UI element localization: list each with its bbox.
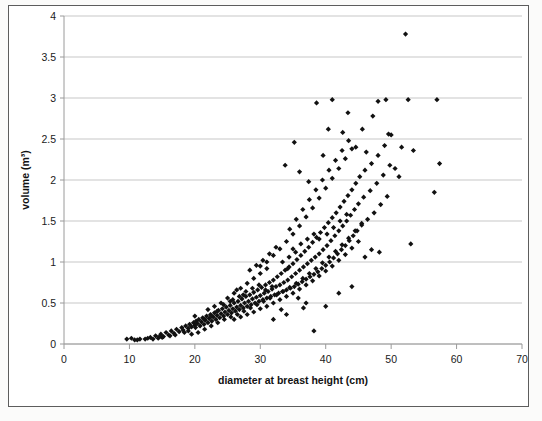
data-point (307, 197, 312, 202)
data-point (311, 272, 316, 277)
data-point (340, 223, 345, 228)
data-point (267, 280, 272, 285)
data-point (285, 277, 290, 282)
data-point (375, 153, 380, 158)
data-point (310, 278, 315, 283)
x-tick-label: 20 (189, 353, 201, 365)
data-point (275, 274, 280, 279)
data-point (189, 332, 194, 337)
data-point (364, 150, 369, 155)
data-point (279, 271, 284, 276)
data-point (357, 174, 362, 179)
data-point (202, 327, 207, 332)
data-point (385, 194, 390, 199)
data-point (352, 207, 357, 212)
data-point (324, 243, 329, 248)
data-point (396, 174, 401, 179)
data-point (254, 263, 259, 268)
data-point (331, 255, 336, 260)
data-point (356, 239, 361, 244)
data-point (251, 309, 256, 314)
data-point (245, 281, 250, 286)
y-tick-label: 2.5 (41, 133, 56, 145)
y-tick-label: 1.5 (41, 215, 56, 227)
data-point (317, 273, 322, 278)
data-point (263, 282, 268, 287)
data-point (245, 312, 250, 317)
data-point (300, 207, 305, 212)
data-point (303, 214, 308, 219)
data-point (339, 247, 344, 252)
data-point (356, 201, 361, 206)
data-point (286, 254, 291, 259)
data-point (196, 330, 201, 335)
data-point (330, 215, 335, 220)
data-point (330, 264, 335, 269)
data-point (264, 304, 269, 309)
data-point (340, 130, 345, 135)
data-point (339, 148, 344, 153)
data-point (313, 187, 318, 192)
data-point (314, 100, 319, 105)
data-point (333, 158, 338, 163)
data-point (324, 232, 329, 237)
data-point (399, 145, 404, 150)
data-point (212, 304, 217, 309)
scatter-plot: 00.511.522.533.54 010203040506070 diamet… (9, 6, 528, 406)
data-point (305, 236, 310, 241)
data-point (251, 276, 256, 281)
y-tick-label: 0 (50, 338, 56, 350)
data-point (283, 163, 288, 168)
data-point (320, 177, 325, 182)
data-point (362, 254, 367, 259)
x-tick-label: 30 (254, 353, 266, 365)
data-point (310, 240, 315, 245)
data-point (345, 193, 350, 198)
data-point (344, 212, 349, 217)
data-point (332, 233, 337, 238)
data-point (323, 186, 328, 191)
data-point (294, 257, 299, 262)
data-point (372, 210, 377, 215)
data-point (284, 312, 289, 317)
data-point (297, 169, 302, 174)
data-point (345, 110, 350, 115)
data-point (375, 99, 380, 104)
data-point (303, 282, 308, 287)
data-point (370, 113, 375, 118)
data-point (411, 148, 416, 153)
data-point (353, 181, 358, 186)
data-point (289, 274, 294, 279)
data-point (317, 251, 322, 256)
data-point (361, 195, 366, 200)
chart-frame: 00.511.522.533.54 010203040506070 diamet… (8, 5, 529, 407)
y-tick-label: 2 (50, 174, 56, 186)
x-tick-label: 10 (124, 353, 136, 365)
data-point (341, 199, 346, 204)
data-point (192, 314, 197, 319)
data-point (301, 305, 306, 310)
data-point (320, 247, 325, 252)
data-point (349, 284, 354, 289)
data-point (271, 277, 276, 282)
data-point (296, 295, 301, 300)
data-point (336, 228, 341, 233)
data-point (258, 306, 263, 311)
data-point (287, 227, 292, 232)
data-point (298, 253, 303, 258)
data-point (279, 307, 284, 312)
data-point (437, 161, 442, 166)
data-point (403, 31, 408, 36)
data-point (124, 336, 129, 341)
data-point (298, 241, 303, 246)
data-point (382, 143, 387, 148)
data-point (362, 168, 367, 173)
data-point (377, 250, 382, 255)
data-point (338, 204, 343, 209)
data-point (297, 268, 302, 273)
data-point (369, 161, 374, 166)
data-point (303, 300, 308, 305)
x-tick-label: 50 (385, 353, 397, 365)
data-point (432, 190, 437, 195)
x-tick-label: 0 (61, 353, 67, 365)
